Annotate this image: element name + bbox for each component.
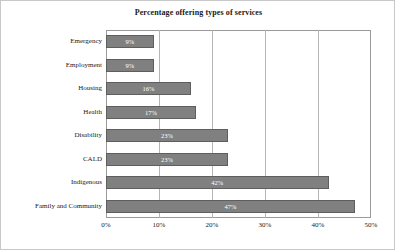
y-axis-label: Disability (1, 124, 102, 148)
x-axis-tick-label: 20% (206, 221, 219, 229)
y-axis-label: Health (1, 101, 102, 125)
y-axis-category-labels: EmergencyEmploymentHousingHealthDisabili… (1, 30, 102, 218)
bar-value-label: 17% (106, 106, 196, 119)
bar-value-label: 9% (106, 59, 154, 72)
bar-row[interactable]: 47% (106, 195, 371, 219)
x-axis-tick-label: 10% (153, 221, 166, 229)
bar-row[interactable]: 23% (106, 148, 371, 172)
bar-value-label: 23% (106, 129, 228, 142)
x-axis-tick-label: 50% (365, 221, 378, 229)
x-axis-tick-label: 40% (312, 221, 325, 229)
bar-value-label: 42% (106, 176, 329, 189)
x-axis-tick-label: 0% (101, 221, 110, 229)
bar-row[interactable]: 17% (106, 101, 371, 125)
y-axis-label: Employment (1, 54, 102, 78)
y-axis-label: Emergency (1, 30, 102, 54)
bar-value-label: 23% (106, 153, 228, 166)
bar-value-label: 9% (106, 35, 154, 48)
x-axis-tick-labels: 0%10%20%30%40%50% (106, 221, 371, 235)
bar-series: 9%9%16%17%23%23%42%47% (106, 30, 371, 218)
x-axis-tick-label: 30% (259, 221, 272, 229)
chart-figure: Percentage offering types of services Em… (0, 0, 395, 250)
y-axis-label: Family and Community (1, 195, 102, 219)
chart-title: Percentage offering types of services (1, 8, 395, 17)
y-axis-label: Housing (1, 77, 102, 101)
bar-value-label: 16% (106, 82, 191, 95)
bar-row[interactable]: 16% (106, 77, 371, 101)
y-axis-label: CALD (1, 148, 102, 172)
bar-row[interactable]: 23% (106, 124, 371, 148)
y-axis-label: Indigenous (1, 171, 102, 195)
bar-row[interactable]: 42% (106, 171, 371, 195)
bar-row[interactable]: 9% (106, 30, 371, 54)
bar-value-label: 47% (106, 200, 355, 213)
bar-row[interactable]: 9% (106, 54, 371, 78)
